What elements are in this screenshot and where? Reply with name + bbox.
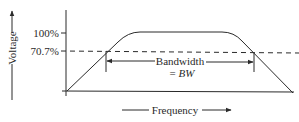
cutoff-dashed-line bbox=[61, 51, 299, 53]
bandwidth-equals: = bbox=[170, 67, 179, 79]
tick-label-70-7: 70.7% bbox=[31, 45, 59, 57]
y-axis-label: Voltage bbox=[6, 31, 18, 65]
x-axis bbox=[62, 91, 294, 92]
frequency-response-diagram: 100% 70.7% Bandwidth = BW Frequency Volt… bbox=[0, 0, 299, 122]
bandwidth-equals-label: = BW bbox=[170, 67, 196, 79]
tick-label-100: 100% bbox=[33, 27, 59, 39]
bandwidth-symbol: BW bbox=[179, 67, 196, 79]
bandwidth-label: Bandwidth bbox=[156, 55, 205, 67]
x-axis-label: Frequency bbox=[152, 104, 199, 116]
